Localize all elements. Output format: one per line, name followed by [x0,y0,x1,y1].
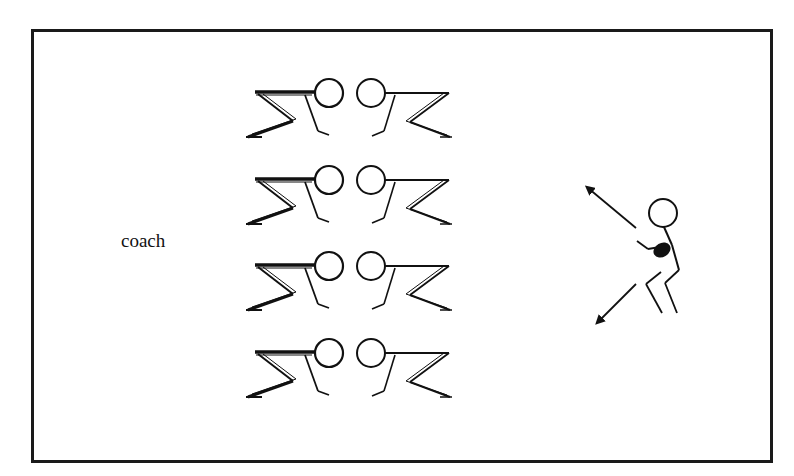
lineman-pair-row-1 [246,79,452,137]
lineman-pair-row-4 [246,339,452,397]
arrow-down-left-icon [598,284,636,322]
drill-diagram [0,0,794,476]
lineman-pair-row-2 [246,166,452,224]
lineman-pair-row-3 [246,252,452,310]
ball-carrier-figure [637,199,679,313]
arrow-up-left-icon [588,188,636,228]
